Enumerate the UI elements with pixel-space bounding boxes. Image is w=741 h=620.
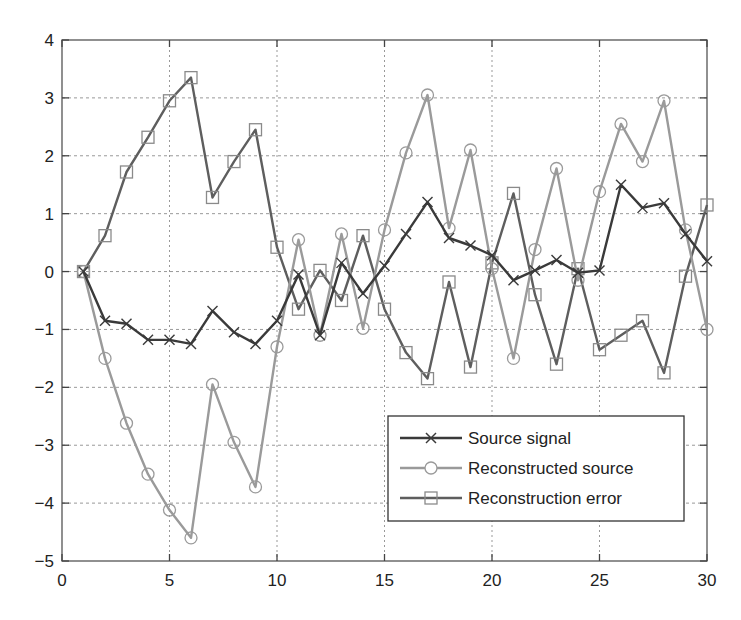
legend-label-reconstructed-source: Reconstructed source xyxy=(468,459,633,478)
x-tick-label: 25 xyxy=(590,571,609,590)
y-axis-tick-labels: −5−4−3−2−101234 xyxy=(35,31,54,571)
y-tick-label: 0 xyxy=(45,263,54,282)
x-tick-label: 30 xyxy=(698,571,717,590)
legend-label-reconstruction-error: Reconstruction error xyxy=(468,489,622,508)
y-tick-label: −5 xyxy=(35,552,54,571)
y-tick-label: −2 xyxy=(35,378,54,397)
series-line xyxy=(84,78,708,379)
x-tick-label: 15 xyxy=(375,571,394,590)
y-tick-label: −3 xyxy=(35,436,54,455)
y-tick-label: 1 xyxy=(45,205,54,224)
legend-label-source-signal: Source signal xyxy=(468,429,571,448)
y-tick-label: 4 xyxy=(45,31,54,50)
line-chart: 051015202530 −5−4−3−2−101234 Source sign… xyxy=(0,0,741,620)
y-tick-label: 2 xyxy=(45,147,54,166)
x-tick-label: 5 xyxy=(165,571,174,590)
x-tick-label: 10 xyxy=(268,571,287,590)
x-tick-label: 0 xyxy=(57,571,66,590)
legend: Source signal Reconstructed source Recon… xyxy=(388,416,684,521)
x-tick-label: 20 xyxy=(483,571,502,590)
circle-marker-icon xyxy=(425,462,437,474)
y-tick-label: −4 xyxy=(35,494,54,513)
y-tick-label: −1 xyxy=(35,320,54,339)
series-line xyxy=(84,185,708,344)
series-source-signal xyxy=(79,180,713,349)
x-axis-tick-labels: 051015202530 xyxy=(57,571,716,590)
y-tick-label: 3 xyxy=(45,89,54,108)
